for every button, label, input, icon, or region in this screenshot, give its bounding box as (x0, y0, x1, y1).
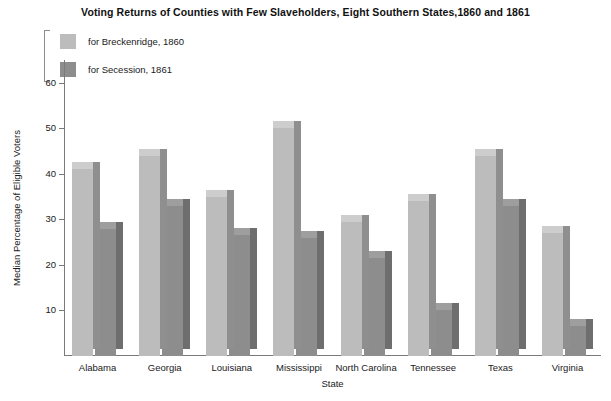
bar-breckenridge (72, 169, 93, 356)
bar-breckenridge (139, 156, 160, 356)
bar-top-face (206, 190, 227, 197)
bar-side-face (519, 199, 526, 349)
bar-front-face (475, 156, 496, 356)
bar-group (198, 60, 265, 356)
x-axis-title: State (64, 378, 601, 389)
bar-front-face (72, 169, 93, 356)
bar-top-face (72, 162, 93, 169)
y-tick-label: 20 (30, 260, 56, 270)
bar-front-face (542, 233, 563, 356)
bar-group (467, 60, 534, 356)
legend-bracket (44, 30, 50, 82)
bar-side-face (160, 149, 167, 349)
chart-title: Voting Returns of Counties with Few Slav… (0, 6, 611, 18)
bar-side-face (116, 222, 123, 350)
bar-breckenridge (273, 128, 294, 356)
bar-front-face (273, 128, 294, 356)
legend-label-breckenridge: for Breckenridge, 1860 (88, 36, 184, 47)
bar-side-face (586, 319, 593, 349)
y-tick-label: 40 (30, 169, 56, 179)
bar-group (400, 60, 467, 356)
legend-swatch-breckenridge (60, 34, 76, 49)
bar-side-face (317, 231, 324, 349)
bar-front-face (341, 222, 362, 356)
bar-breckenridge (408, 201, 429, 356)
bar-side-face (452, 303, 459, 349)
y-tick-label: 50 (30, 123, 56, 133)
bar-breckenridge (206, 197, 227, 356)
bar-front-face (139, 156, 160, 356)
chart-figure: Voting Returns of Counties with Few Slav… (0, 0, 611, 401)
bar-group (131, 60, 198, 356)
bar-group (64, 60, 131, 356)
bar-group (333, 60, 400, 356)
bar-side-face (429, 194, 436, 349)
bar-top-face (408, 194, 429, 201)
bar-top-face (273, 121, 294, 128)
bar-top-face (139, 149, 160, 156)
bar-side-face (563, 226, 570, 349)
bar-top-face (341, 215, 362, 222)
y-tick-label: 30 (30, 214, 56, 224)
plot-area: Median Percentage of Eligible Voters 102… (64, 60, 601, 356)
bar-side-face (385, 251, 392, 349)
bar-side-face (183, 199, 190, 349)
bar-breckenridge (341, 222, 362, 356)
bar-front-face (206, 197, 227, 356)
y-axis-title: Median Percentage of Eligible Voters (10, 60, 24, 356)
bar-top-face (542, 226, 563, 233)
bar-side-face (93, 162, 100, 349)
bar-group (265, 60, 332, 356)
bar-group (534, 60, 601, 356)
bar-side-face (496, 149, 503, 349)
bar-side-face (294, 121, 301, 349)
bar-top-face (475, 149, 496, 156)
bar-breckenridge (475, 156, 496, 356)
bar-front-face (408, 201, 429, 356)
bar-side-face (227, 190, 234, 349)
legend-item-breckenridge: for Breckenridge, 1860 (60, 33, 184, 49)
bar-breckenridge (542, 233, 563, 356)
y-tick-label: 60 (30, 78, 56, 88)
bar-side-face (362, 215, 369, 349)
bar-side-face (250, 228, 257, 349)
x-tick-label: Virginia (524, 362, 611, 373)
y-tick-label: 10 (30, 305, 56, 315)
